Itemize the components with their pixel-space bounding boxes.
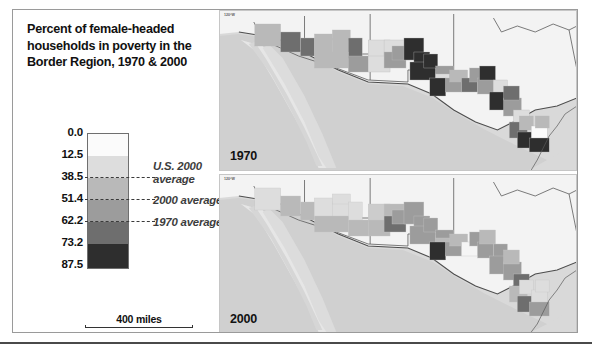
legend-swatch-0: [88, 134, 128, 156]
legend-swatch-1: [88, 156, 128, 178]
map-panel-1970: 120°W 1970: [219, 10, 577, 171]
title-line-2: households in poverty in the: [27, 38, 213, 55]
legend-break-2: 38.5: [61, 171, 83, 183]
map-1970-graphic: [219, 10, 577, 171]
footer-divider: [0, 342, 592, 344]
reference-label-us-2000-average-line1: U.S. 2000: [153, 160, 202, 173]
title-line-1: Percent of female-headed: [27, 21, 213, 38]
legend-panel: Percent of female-headed households in p…: [13, 10, 219, 332]
map-panel-2000: 120°W 2000: [219, 174, 577, 333]
map-panels: 120°W 1970: [219, 10, 577, 332]
map-2000-coordinate-label: 120°W: [224, 177, 235, 181]
reference-line-2000-average: [85, 199, 155, 200]
legend-swatch-2: [88, 178, 128, 200]
legend-swatch-4: [88, 222, 128, 244]
reference-label-us-2000-average-line2: average: [153, 173, 195, 186]
legend-break-3: 51.4: [61, 193, 83, 205]
legend: 0.0 12.5 38.5 51.4 62.2 73.2 87.5: [49, 127, 219, 275]
reference-label-2000-average: 2000 average: [153, 194, 222, 207]
legend-break-labels: 0.0 12.5 38.5 51.4 62.2 73.2 87.5: [49, 127, 83, 275]
map-1970-year-label: 1970: [230, 149, 257, 163]
reference-line-1970-average: [85, 221, 155, 222]
figure-frame: Percent of female-headed households in p…: [12, 9, 578, 333]
scale-bar: 400 miles: [85, 310, 193, 332]
legend-break-6: 87.5: [61, 259, 83, 271]
legend-swatch-5: [88, 244, 128, 268]
map-2000-graphic: [219, 174, 577, 333]
legend-swatch-3: [88, 200, 128, 222]
scale-bar-label: 400 miles: [85, 313, 193, 325]
title-line-3: Border Region, 1970 & 2000: [27, 54, 213, 71]
legend-break-0: 0.0: [68, 127, 83, 139]
legend-break-4: 62.2: [61, 215, 83, 227]
map-2000-year-label: 2000: [230, 312, 257, 326]
figure-title: Percent of female-headed households in p…: [27, 21, 213, 71]
map-1970-coordinate-label: 120°W: [224, 13, 235, 17]
legend-break-1: 12.5: [61, 149, 83, 161]
reference-label-1970-average: 1970 average: [153, 216, 222, 229]
reference-line-us-2000-average: [85, 177, 155, 178]
legend-break-5: 73.2: [61, 237, 83, 249]
scale-bar-line: [85, 327, 193, 328]
legend-color-ramp: [87, 133, 129, 269]
